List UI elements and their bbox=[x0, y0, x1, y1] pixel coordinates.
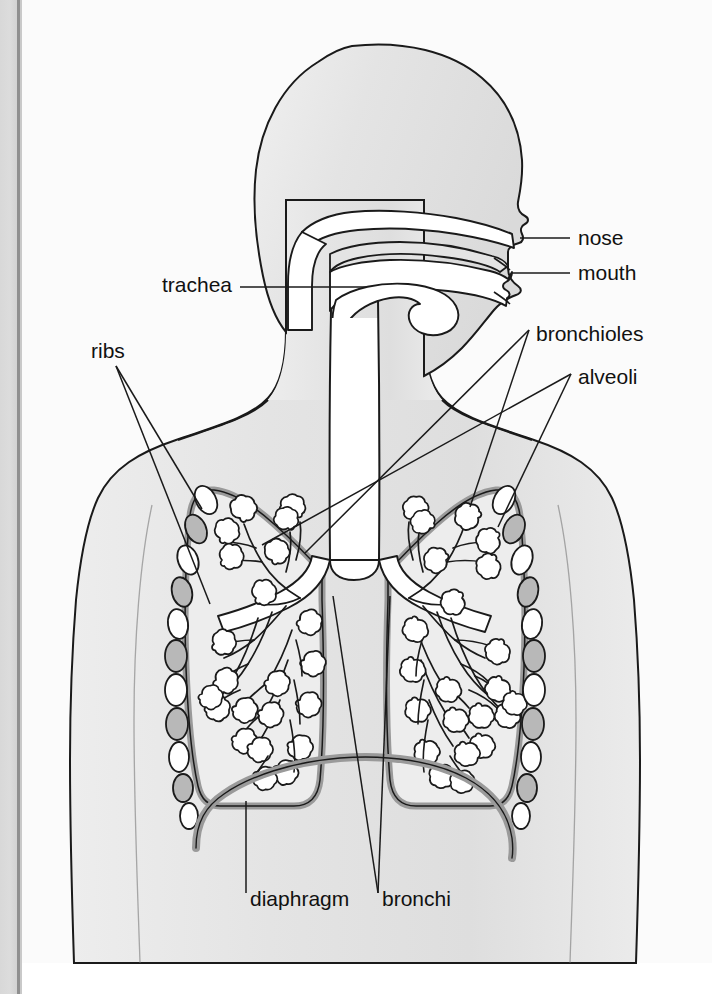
label-trachea: trachea bbox=[162, 273, 232, 296]
label-nose: nose bbox=[578, 226, 624, 249]
label-ribs: ribs bbox=[91, 339, 125, 362]
label-bronchioles: bronchioles bbox=[536, 322, 643, 345]
label-diaphragm: diaphragm bbox=[250, 887, 349, 910]
label-alveoli: alveoli bbox=[578, 365, 638, 388]
label-bronchi: bronchi bbox=[382, 887, 451, 910]
label-mouth: mouth bbox=[578, 261, 636, 284]
trachea-tube bbox=[330, 318, 378, 560]
respiratory-system-diagram: nose mouth bronchioles alveoli trachea r… bbox=[0, 0, 712, 994]
diagram-page: nose mouth bronchioles alveoli trachea r… bbox=[0, 0, 712, 994]
